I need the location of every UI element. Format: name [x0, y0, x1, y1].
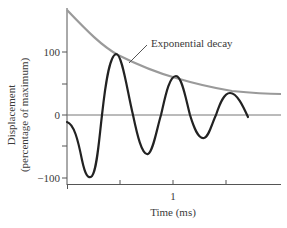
y-tick-label-0: 0 [55, 109, 61, 121]
x-tick-label-1: 1 [170, 190, 176, 202]
y-tick-label-100: 100 [44, 46, 61, 58]
y-axis-title: Displacement [5, 85, 17, 145]
x-axis-title: Time (ms) [150, 206, 196, 219]
y-tick-label-neg100: −100 [37, 172, 60, 184]
y-ticks [62, 52, 67, 178]
exponential-decay-curve [67, 10, 281, 94]
exponential-decay-label: Exponential decay [151, 37, 233, 49]
y-axis-subtitle: (percentage of maximum) [18, 58, 31, 173]
annotation-leader-line [129, 45, 147, 63]
damped-oscillation-chart: 100 0 −100 1 Time (ms) Displacement (per… [0, 0, 287, 228]
